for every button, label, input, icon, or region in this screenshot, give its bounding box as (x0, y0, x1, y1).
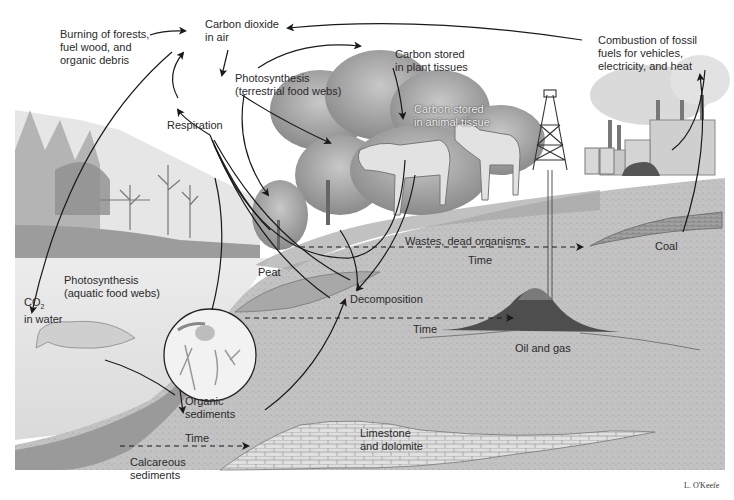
plankton-inset (164, 309, 256, 401)
label-decomposition: Decomposition (350, 293, 423, 306)
label-carbon-plant: Carbon stored in plant tissues (395, 48, 468, 74)
label-organic-sediments: Organic sediments (185, 395, 235, 421)
factory (585, 55, 730, 176)
label-time-2: Time (413, 323, 437, 336)
label-calcareous: Calcareous sediments (130, 456, 186, 482)
label-limestone: Limestone and dolomite (360, 427, 423, 453)
label-wastes: Wastes, dead organisms (405, 235, 526, 248)
label-peat: Peat (258, 266, 281, 279)
illustration (0, 0, 734, 500)
label-co2-water: CO2in water (24, 296, 63, 326)
label-photosynthesis-aquatic: Photosynthesis (aquatic food webs) (64, 274, 160, 300)
label-burning: Burning of forests, fuel wood, and organ… (60, 28, 149, 67)
label-combustion: Combustion of fossil fuels for vehicles,… (598, 34, 697, 73)
label-time-1: Time (468, 254, 492, 267)
label-carbon-animal: Carbon stored in animal tissue (414, 103, 490, 129)
carbon-cycle-diagram: Carbon dioxide in air Burning of forests… (0, 0, 734, 500)
label-oil-gas: Oil and gas (515, 342, 571, 355)
label-photosynthesis-terrestrial: Photosynthesis (terrestrial food webs) (235, 72, 341, 98)
label-time-3: Time (185, 432, 209, 445)
artist-signature: L. O'Keefe (684, 479, 719, 492)
label-co2-air: Carbon dioxide in air (205, 18, 279, 44)
label-coal: Coal (655, 240, 678, 253)
label-respiration: Respiration (167, 119, 223, 132)
